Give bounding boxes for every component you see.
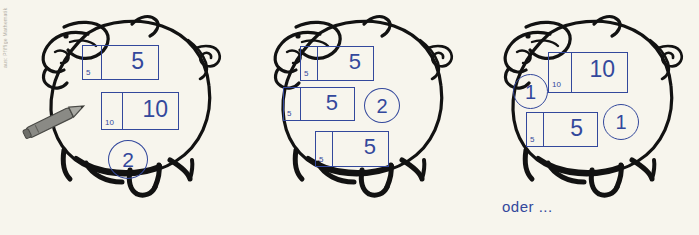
coin-circle: 2	[108, 140, 148, 179]
coin-circle: 1	[513, 74, 548, 109]
value-box: 5 5	[82, 45, 159, 80]
box-small-label: 10	[552, 81, 561, 89]
box-divider	[332, 132, 333, 166]
value-box: 10 10	[101, 92, 179, 130]
box-small-label: 5	[319, 156, 323, 164]
value-box: 5 5	[526, 112, 598, 147]
box-big-label: 5	[570, 117, 583, 140]
box-small-label: 10	[105, 119, 114, 127]
box-divider	[122, 93, 123, 129]
oder-caption: oder ...	[502, 198, 553, 215]
box-divider	[571, 53, 572, 92]
pig-left: 5 5 10 10 2	[0, 0, 239, 205]
worksheet-canvas: aus: Pfiffige Mathematik	[0, 0, 699, 235]
value-box: 5 5	[315, 131, 389, 167]
box-divider	[101, 46, 102, 79]
box-big-label: 10	[142, 98, 168, 121]
pig-right: 10 10 5 5 1 1	[462, 0, 699, 205]
box-big-label: 5	[349, 51, 361, 73]
box-divider	[543, 113, 544, 146]
coin-circle: 1	[603, 104, 639, 140]
pencil-icon	[22, 101, 86, 140]
box-small-label: 5	[304, 70, 308, 78]
box-big-label: 5	[364, 136, 376, 158]
box-divider	[317, 47, 318, 80]
value-box: 5 5	[300, 46, 374, 81]
value-box: 10 10	[548, 52, 628, 93]
pig-right-drawing	[462, 0, 699, 205]
box-small-label: 5	[530, 136, 534, 144]
value-box: 5 5	[283, 87, 355, 121]
box-small-label: 5	[287, 110, 291, 118]
box-big-label: 10	[589, 58, 615, 81]
box-big-label: 5	[326, 92, 338, 114]
box-divider	[300, 88, 301, 120]
pig-middle: 5 5 5 5 5 5 2	[232, 0, 471, 205]
box-big-label: 5	[131, 50, 144, 73]
coin-circle: 2	[364, 88, 400, 123]
box-small-label: 5	[86, 69, 90, 77]
